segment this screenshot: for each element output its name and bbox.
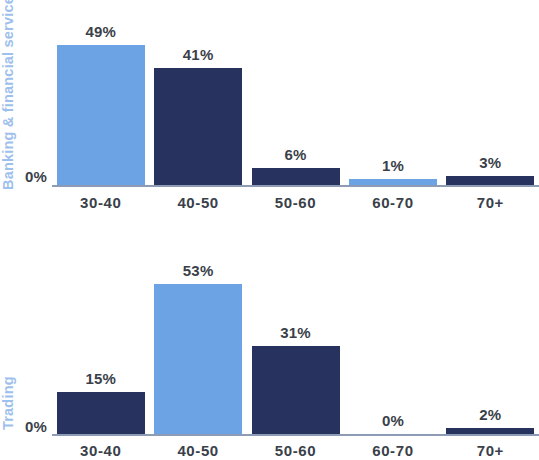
bar-slot: 6% xyxy=(247,4,344,185)
plot-area-banking: 49%41%6%1%3% xyxy=(52,6,539,187)
bar-value-label: 1% xyxy=(382,158,404,173)
chart-figure: Banking & financial services 0% 49%41%6%… xyxy=(0,0,539,460)
x-axis-tick-labels-bottom: 30-4040-5050-6060-7070+ xyxy=(52,442,539,459)
x-axis-tick-label: 50-60 xyxy=(247,194,344,211)
bar xyxy=(446,176,534,185)
x-axis-tick-label: 70+ xyxy=(442,194,539,211)
bar-group-trading: 15%53%31%0%2% xyxy=(52,254,539,434)
bar xyxy=(252,346,340,434)
bar-value-label: 31% xyxy=(280,325,311,340)
bar-group-banking: 49%41%6%1%3% xyxy=(52,4,539,185)
x-axis-tick-label: 70+ xyxy=(442,442,539,459)
bar-slot: 15% xyxy=(52,254,149,434)
series-label-trading: Trading xyxy=(0,230,16,430)
bar-slot: 3% xyxy=(442,4,539,185)
bar xyxy=(154,284,242,434)
bar-value-label: 41% xyxy=(183,47,214,62)
x-axis-tick-label: 40-50 xyxy=(149,442,246,459)
x-axis-tick-label: 50-60 xyxy=(247,442,344,459)
x-axis-tick-label: 60-70 xyxy=(344,442,441,459)
series-label-banking: Banking & financial services xyxy=(0,0,16,190)
bar-slot: 0% xyxy=(344,254,441,434)
bar-slot: 2% xyxy=(442,254,539,434)
x-axis-line-bottom xyxy=(52,434,539,436)
x-axis-tick-label: 40-50 xyxy=(149,194,246,211)
chart-panel-banking: Banking & financial services 0% 49%41%6%… xyxy=(0,0,539,230)
bar-slot: 41% xyxy=(149,4,246,185)
bar xyxy=(57,392,145,434)
bar-value-label: 2% xyxy=(479,407,501,422)
bar-value-label: 0% xyxy=(382,413,404,428)
x-axis-tick-label: 60-70 xyxy=(344,194,441,211)
bar-value-label: 15% xyxy=(85,371,116,386)
x-axis-line-top xyxy=(52,185,539,187)
x-axis-tick-label: 30-40 xyxy=(52,442,149,459)
bar-slot: 31% xyxy=(247,254,344,434)
bar-slot: 53% xyxy=(149,254,246,434)
bar xyxy=(154,68,242,185)
bar-value-label: 49% xyxy=(85,24,116,39)
x-axis-tick-label: 30-40 xyxy=(52,194,149,211)
bar xyxy=(252,168,340,185)
y-axis-zero-label-bottom: 0% xyxy=(25,418,47,435)
bar-value-label: 3% xyxy=(479,155,501,170)
bar-value-label: 6% xyxy=(284,147,306,162)
bar-value-label: 53% xyxy=(183,263,214,278)
x-axis-tick-labels-top: 30-4040-5050-6060-7070+ xyxy=(52,194,539,211)
bar-slot: 1% xyxy=(344,4,441,185)
bar xyxy=(57,45,145,185)
y-axis-zero-label-top: 0% xyxy=(25,168,47,185)
bar-slot: 49% xyxy=(52,4,149,185)
plot-area-trading: 15%53%31%0%2% xyxy=(52,256,539,436)
